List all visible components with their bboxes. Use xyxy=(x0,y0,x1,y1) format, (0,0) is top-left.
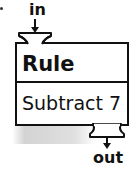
rule-title: Rule xyxy=(22,53,75,75)
function-machine-diagram: in Rule Subtract 7 out xyxy=(0,0,132,171)
machine-graphic xyxy=(0,0,132,171)
rule-text: Subtract 7 xyxy=(22,92,121,114)
output-label: out xyxy=(93,150,123,166)
input-label: in xyxy=(29,2,46,18)
box-shadow xyxy=(12,126,96,144)
